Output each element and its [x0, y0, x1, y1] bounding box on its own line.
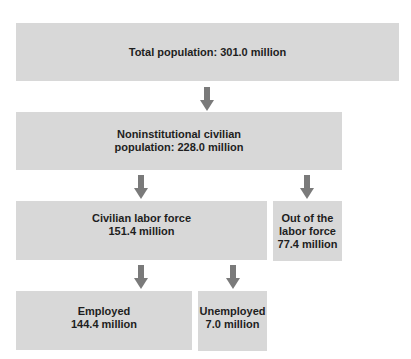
out-of-labor-force-box: Out of the labor force 77.4 million	[273, 201, 342, 261]
arrow-down-icon	[226, 265, 240, 289]
unemployed-line-2: 7.0 million	[206, 318, 260, 331]
civilian-labor-force-box: Civilian labor force 151.4 million	[16, 201, 267, 260]
unemployed-box: Unemployed 7.0 million	[198, 291, 267, 351]
unemployed-line-1: Unemployed	[199, 305, 265, 318]
noninstitutional-line-2: population: 228.0 million	[115, 141, 244, 154]
employed-box: Employed 144.4 million	[16, 291, 192, 350]
noninstitutional-population-box: Noninstitutional civilian population: 22…	[16, 112, 342, 170]
out-of-labor-force-line-2: labor force	[279, 225, 336, 238]
out-of-labor-force-line-1: Out of the	[282, 212, 334, 225]
employed-line-2: 144.4 million	[71, 318, 137, 331]
arrow-down-icon	[134, 265, 148, 289]
arrow-down-icon	[300, 175, 314, 199]
employed-line-1: Employed	[78, 305, 131, 318]
arrow-down-icon	[200, 87, 214, 111]
total-population-label: Total population: 301.0 million	[129, 46, 286, 59]
arrow-down-icon	[134, 175, 148, 199]
civilian-labor-force-line-1: Civilian labor force	[92, 212, 191, 225]
civilian-labor-force-line-2: 151.4 million	[108, 225, 174, 238]
total-population-box: Total population: 301.0 million	[16, 23, 399, 81]
out-of-labor-force-line-3: 77.4 million	[278, 238, 338, 251]
noninstitutional-line-1: Noninstitutional civilian	[117, 128, 241, 141]
